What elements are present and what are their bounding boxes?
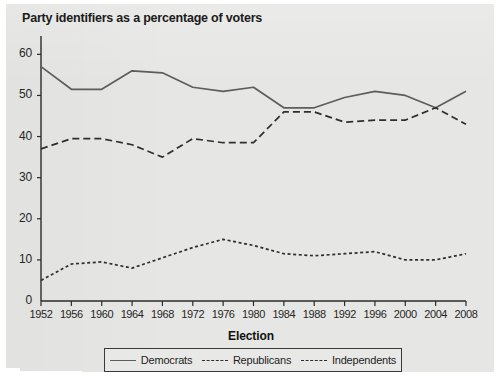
- x-tick-label-1988: 1988: [298, 308, 330, 320]
- y-tick-label-20: 20: [6, 211, 32, 225]
- y-tick-label-30: 30: [6, 170, 32, 184]
- x-axis-title: Election: [0, 329, 502, 343]
- x-tick-label-1996: 1996: [359, 308, 391, 320]
- legend-label-republicans: Republicans: [233, 354, 291, 366]
- series-line-republicans: [41, 108, 466, 157]
- x-tick-label-1956: 1956: [55, 308, 87, 320]
- y-tick-label-10: 10: [6, 252, 32, 266]
- y-tick-label-50: 50: [6, 87, 32, 101]
- x-tick-label-2000: 2000: [389, 308, 421, 320]
- x-tick-label-2008: 2008: [450, 308, 482, 320]
- legend-item-independents: Independents: [301, 354, 396, 366]
- chart-axes: [41, 36, 466, 301]
- legend-swatch-republicans-icon: [202, 360, 228, 361]
- page-margin-strip-left: [0, 368, 20, 384]
- x-tick-label-1968: 1968: [146, 308, 178, 320]
- x-tick-label-1972: 1972: [177, 308, 209, 320]
- x-tick-label-1984: 1984: [268, 308, 300, 320]
- x-tick-label-2004: 2004: [420, 308, 452, 320]
- legend-item-democrats: Democrats: [110, 354, 192, 366]
- chart-page: Party identifiers as a percentage of vot…: [0, 0, 502, 384]
- legend-item-republicans: Republicans: [202, 354, 291, 366]
- legend-swatch-democrats-icon: [110, 360, 136, 361]
- chart-plot-svg: [0, 0, 502, 384]
- series-line-democrats: [41, 67, 466, 108]
- x-tick-label-1976: 1976: [207, 308, 239, 320]
- y-tick-label-60: 60: [6, 46, 32, 60]
- x-tick-label-1980: 1980: [238, 308, 270, 320]
- x-tick-label-1992: 1992: [329, 308, 361, 320]
- chart-series-lines: [41, 67, 466, 281]
- y-tick-label-40: 40: [6, 129, 32, 143]
- series-line-independents: [41, 239, 466, 280]
- legend-label-independents: Independents: [332, 354, 396, 366]
- chart-axis-ticks: [37, 54, 466, 306]
- legend-swatch-independents-icon: [301, 360, 327, 361]
- chart-legend: Democrats Republicans Independents: [104, 348, 402, 372]
- x-tick-label-1960: 1960: [86, 308, 118, 320]
- x-tick-label-1964: 1964: [116, 308, 148, 320]
- x-tick-label-1952: 1952: [25, 308, 57, 320]
- legend-label-democrats: Democrats: [141, 354, 192, 366]
- y-tick-label-0: 0: [6, 293, 32, 307]
